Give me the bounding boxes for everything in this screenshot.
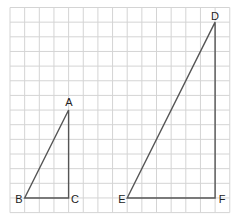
label-b: B <box>15 194 22 205</box>
label-a: A <box>65 97 72 108</box>
label-c: C <box>71 194 79 205</box>
grid-lines <box>10 8 230 213</box>
label-e: E <box>118 194 125 205</box>
grid-diagram <box>0 0 242 224</box>
label-f: F <box>219 194 226 205</box>
label-d: D <box>211 11 219 22</box>
